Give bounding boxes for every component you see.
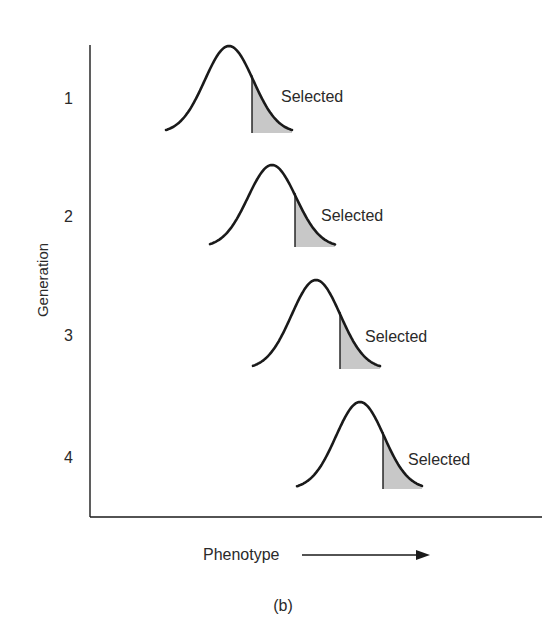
generation-2: Selected2 <box>64 165 383 247</box>
selection-diagram: Generation Selected1Selected2Selected3Se… <box>0 0 560 639</box>
y-axis-label: Generation <box>34 243 51 317</box>
generation-1: Selected1 <box>64 46 343 133</box>
panel-label: (b) <box>273 597 293 614</box>
selected-label: Selected <box>321 207 383 224</box>
generation-number: 4 <box>64 449 73 466</box>
selected-label: Selected <box>408 451 470 468</box>
generation-4: Selected4 <box>64 402 470 489</box>
x-axis-label: Phenotype <box>203 546 280 563</box>
arrow-head-icon <box>416 550 430 560</box>
distribution-curve <box>297 402 422 486</box>
distribution-curve <box>210 165 335 244</box>
selected-label: Selected <box>365 328 427 345</box>
generation-number: 3 <box>64 327 73 344</box>
selected-label: Selected <box>281 88 343 105</box>
generation-3: Selected3 <box>64 280 427 369</box>
distribution-curve <box>253 280 380 366</box>
distribution-curve <box>166 46 292 130</box>
generation-number: 2 <box>64 208 73 225</box>
generation-number: 1 <box>64 90 73 107</box>
selected-tail-shading <box>252 78 292 133</box>
